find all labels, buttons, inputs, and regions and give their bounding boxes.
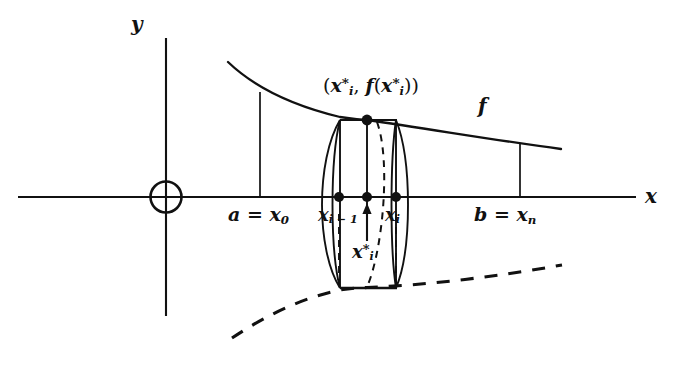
point-inner-x: x (381, 74, 392, 96)
shell-outer-right-arc (396, 120, 408, 288)
point-x-star-superscript: * (342, 75, 349, 91)
lower-bound-var: x (269, 203, 280, 225)
lower-bound-letter: a (228, 203, 240, 225)
x-i-minus-1-label: xi − 1 (318, 206, 358, 226)
point-comma: , (353, 74, 365, 96)
point-close-paren: ) (411, 74, 418, 96)
lower-bound-operator: = (240, 203, 269, 225)
x-star-i-label: x*i (352, 243, 374, 263)
dot-x-i-minus-1 (334, 192, 344, 202)
x-i-label: xi (385, 206, 400, 226)
shell-inner-left-arc (333, 120, 341, 288)
point-coordinate-label: (x*i, f(x*i)) (323, 76, 419, 97)
y-axis-label: y (131, 14, 143, 34)
figure-canvas (0, 0, 673, 372)
upper-bound-letter: b (474, 203, 487, 225)
curve-label-f: f (478, 96, 487, 116)
upper-bound-var: x (516, 203, 527, 225)
dot-x-star-i (362, 192, 372, 202)
x-star-i-subscript: i (370, 250, 374, 263)
shell-method-figure: y x f (x*i, f(x*i)) a = x0 b = xn xi − 1… (0, 0, 673, 372)
dot-curve-point (362, 115, 373, 126)
point-f: f (365, 74, 373, 96)
x-star-i-var: x (352, 241, 363, 262)
point-x-star: x (330, 74, 341, 96)
x-star-arrow-icon (362, 203, 371, 241)
point-inner-open-paren: ( (374, 74, 381, 96)
lower-bound-label: a = x0 (228, 205, 289, 226)
x-i-subscript: i (396, 213, 400, 226)
upper-bound-label: b = xn (474, 205, 536, 226)
mirror-curve-dashed (232, 265, 562, 338)
x-i-minus-1-var: x (318, 204, 329, 225)
x-i-minus-1-subscript: i − 1 (329, 213, 358, 226)
point-inner-superscript: * (392, 75, 399, 91)
lower-bound-subscript: 0 (281, 213, 289, 227)
dot-x-i (391, 192, 401, 202)
x-axis-label: x (645, 186, 657, 206)
upper-bound-subscript: n (528, 213, 537, 227)
x-i-var: x (385, 204, 396, 225)
upper-bound-operator: = (487, 203, 516, 225)
x-star-i-superscript: * (363, 242, 370, 257)
